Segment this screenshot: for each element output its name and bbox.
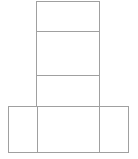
net-face-top-3	[36, 75, 100, 107]
net-face-top-1	[36, 1, 100, 32]
net-face-bottom-left	[8, 106, 38, 153]
cuboid-net-diagram	[0, 0, 138, 159]
net-face-top-2	[36, 31, 100, 76]
net-face-bottom-center	[37, 106, 100, 153]
net-face-bottom-right	[99, 106, 129, 153]
